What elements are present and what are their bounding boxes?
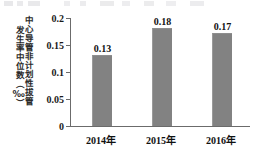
y-tick-label: 0.2 [52, 13, 65, 24]
y-axis-title: 中心导管非计划性拔管 发生率中位数（‰） [6, 16, 40, 130]
bar-2014: 0.13 [92, 55, 112, 126]
x-axis-label-2015: 2015年 [146, 132, 176, 147]
x-axis-line [70, 126, 250, 127]
bar-chart-figure: 中心导管非计划性拔管 发生率中位数（‰） 0.2 0.15 0.1 0.05 0 [0, 0, 260, 155]
x-axis-label-2016: 2016年 [206, 132, 236, 147]
bar-2016: 0.17 [212, 33, 232, 126]
plot-area: 0.2 0.15 0.1 0.05 0 0.13 0.18 0.17 [70, 18, 250, 127]
bar-value-label: 0.13 [94, 43, 112, 54]
y-axis-line [70, 18, 71, 127]
y-axis-title-line-1: 中心导管非计划性拔管 [24, 16, 33, 106]
y-tick-label: 0.05 [47, 94, 65, 105]
scan-artifact-band [4, 1, 218, 6]
bar-2015: 0.18 [152, 28, 172, 126]
bar-value-label: 0.17 [214, 21, 232, 32]
y-axis-title-line-2: 发生率中位数（‰） [14, 16, 23, 108]
bar-value-label: 0.18 [154, 16, 172, 27]
y-tick-label: 0.15 [47, 40, 65, 51]
y-tick-label: 0.1 [52, 67, 65, 78]
x-axis-label-2014: 2014年 [86, 132, 116, 147]
y-tick-label: 0 [59, 121, 64, 132]
